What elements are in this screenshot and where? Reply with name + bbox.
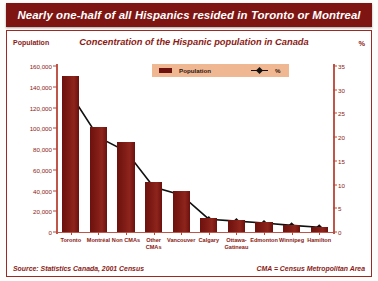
x-axis-tick-mark xyxy=(71,232,72,235)
legend-line-icon xyxy=(251,67,268,74)
legend-label-population: Population xyxy=(179,67,211,74)
bar-vancouver xyxy=(173,191,190,233)
y2-axis-tick-mark xyxy=(333,184,337,185)
y2-axis-tick-label: 35 xyxy=(338,63,345,70)
chart-page: Nearly one-half of all Hispanics resided… xyxy=(0,0,378,281)
bar-non cmas xyxy=(117,142,134,232)
y-axis-tick-mark xyxy=(53,128,57,129)
bar-ottawa--gatineau xyxy=(228,220,245,232)
x-axis-label: Toronto xyxy=(60,237,81,244)
y-axis-tick-mark xyxy=(53,232,57,233)
plot-area: 020,00040,00060,00080,000100,000120,0001… xyxy=(57,66,333,232)
y-axis-tick-mark xyxy=(53,211,57,212)
chart-legend: Population % xyxy=(152,64,289,77)
legend-swatch-population xyxy=(159,68,172,73)
title-banner: Nearly one-half of all Hispanics resided… xyxy=(6,3,372,27)
y2-axis-tick-label: 0 xyxy=(338,229,341,236)
y-axis-tick-mark xyxy=(53,107,57,108)
x-axis-label: Montréal xyxy=(87,237,110,244)
y-axis-tick-label: 0 xyxy=(49,229,52,236)
bar-other-cmas xyxy=(145,182,162,232)
y2-axis-tick-mark xyxy=(333,113,337,114)
y-axis-tick-mark xyxy=(53,66,57,67)
y2-axis-tick-label: 20 xyxy=(338,134,345,141)
chart-subtitle: Concentration of the Hispanic population… xyxy=(0,37,378,47)
x-axis-label: Vancouver xyxy=(167,237,195,244)
percent-line-path xyxy=(71,94,319,227)
y-axis-tick-label: 100,000 xyxy=(30,125,52,132)
x-axis-label: Ottawa- Gatineau xyxy=(224,237,248,251)
banner-title: Nearly one-half of all Hispanics resided… xyxy=(17,9,360,21)
x-axis-tick-mark xyxy=(236,232,237,235)
x-axis-label: Hamilton xyxy=(307,237,331,244)
x-axis-tick-mark xyxy=(264,232,265,235)
bar-edmonton xyxy=(255,222,272,232)
y-axis-tick-label: 80,000 xyxy=(33,146,52,153)
bar-winnipeg xyxy=(283,225,300,232)
y2-axis-tick-mark xyxy=(333,89,337,90)
y2-axis-tick-label: 15 xyxy=(338,157,345,164)
x-axis-label: Other CMAs xyxy=(146,237,162,251)
x-axis-tick-mark xyxy=(154,232,155,235)
y-axis-tick-mark xyxy=(53,169,57,170)
footer-source: Source: Statistics Canada, 2001 Census xyxy=(13,265,144,272)
y2-axis-tick-mark xyxy=(333,66,337,67)
y-axis-tick-label: 40,000 xyxy=(33,187,52,194)
y-axis-tick-mark xyxy=(53,86,57,87)
x-axis-tick-mark xyxy=(126,232,127,235)
y-axis-tick-mark xyxy=(53,149,57,150)
y-axis-tick-label: 120,000 xyxy=(30,104,52,111)
x-axis-tick-mark xyxy=(98,232,99,235)
y2-axis-tick-mark xyxy=(333,232,337,233)
y-axis-tick-label: 60,000 xyxy=(33,166,52,173)
y2-axis-tick-label: 5 xyxy=(338,205,341,212)
y-axis-tick-mark xyxy=(53,190,57,191)
x-axis-tick-mark xyxy=(181,232,182,235)
bar-toronto xyxy=(62,76,79,232)
y2-axis-tick-label: 10 xyxy=(338,181,345,188)
bar-calgary xyxy=(200,218,217,232)
x-axis-tick-mark xyxy=(209,232,210,235)
y2-axis-tick-label: 30 xyxy=(338,86,345,93)
legend-label-percent: % xyxy=(275,67,281,74)
y-axis-tick-label: 20,000 xyxy=(33,208,52,215)
x-axis-label: Edmonton xyxy=(250,237,278,244)
footer-note: CMA = Census Metropolitan Area xyxy=(257,265,365,272)
x-axis-label: Calgary xyxy=(199,237,220,244)
x-axis-label: Non CMAs xyxy=(112,237,140,244)
bar-montréal xyxy=(90,127,107,232)
y2-axis-tick-label: 25 xyxy=(338,110,345,117)
y2-axis-tick-mark xyxy=(333,137,337,138)
x-axis-label: Winnipeg xyxy=(279,237,304,244)
right-axis-title: % xyxy=(358,39,365,48)
y-axis-tick-label: 140,000 xyxy=(30,83,52,90)
y-axis-tick-label: 160,000 xyxy=(30,63,52,70)
y2-axis-tick-mark xyxy=(333,160,337,161)
y2-axis-tick-mark xyxy=(333,208,337,209)
x-axis-tick-mark xyxy=(319,232,320,235)
x-axis-tick-mark xyxy=(292,232,293,235)
